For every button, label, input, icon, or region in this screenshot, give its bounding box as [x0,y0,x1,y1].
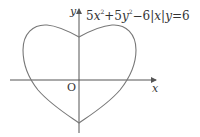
origin-label: O [67,82,76,93]
heart-curve-diagram: y x O 5x2+5y2−6|x|y=6 [0,0,200,137]
eq-coef: 5 [86,9,94,23]
eq-rhs: =6 [172,9,190,23]
eq-var: y [165,9,172,23]
eq-var: y [122,9,129,23]
equation-label: 5x2+5y2−6|x|y=6 [86,9,190,22]
y-axis-label: y [70,6,76,17]
x-axis-label: x [152,83,158,94]
eq-term: −6 [133,9,151,23]
eq-term: +5 [104,9,122,23]
